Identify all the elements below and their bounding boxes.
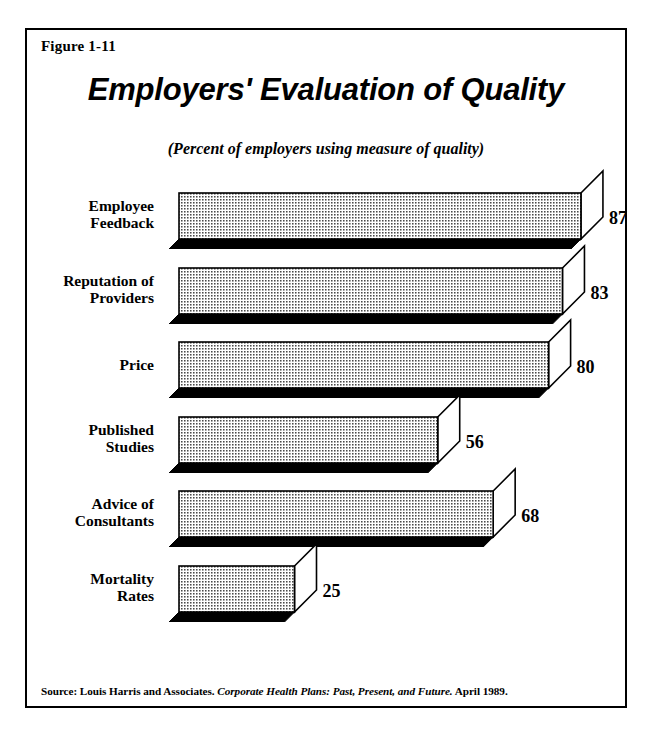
bar-category-label: Advice of Consultants (0, 495, 154, 529)
bar-front-face (179, 566, 295, 612)
bar-front-face (179, 268, 562, 314)
bar-side-face (549, 320, 571, 388)
bar-category-label: Price (0, 356, 154, 373)
bar-3d (145, 542, 325, 622)
figure-frame: Figure 1-11 Employers' Evaluation of Qua… (25, 28, 627, 708)
bar-side-face (493, 469, 515, 537)
bar-front-face (179, 491, 493, 537)
bar-category-label: Employee Feedback (0, 197, 154, 231)
bar-side-face (438, 395, 460, 463)
bar-category-label: Reputation of Providers (0, 272, 154, 306)
bar-value-label: 68 (521, 506, 539, 527)
bar-side-face (562, 246, 584, 314)
bar-side-face (581, 171, 603, 239)
source-publication-title: Corporate Health Plans: Past, Present, a… (217, 685, 452, 697)
bar-value-label: 80 (577, 357, 595, 378)
source-prefix: Source: Louis Harris and Associates. (41, 685, 215, 697)
bar-value-label: 25 (323, 581, 341, 602)
bar-3d (145, 393, 468, 473)
source-date: April 1989. (455, 685, 508, 697)
bar-3d (145, 244, 592, 324)
bar-category-label: Mortality Rates (0, 570, 154, 604)
chart-plot-area: Employee Feedback87Reputation of Provide… (27, 30, 629, 710)
bar-front-face (179, 417, 438, 463)
bar-value-label: 56 (466, 432, 484, 453)
bar-front-face (179, 193, 581, 239)
bar-base-face (157, 612, 295, 622)
bar-value-label: 83 (590, 283, 608, 304)
source-note: Source: Louis Harris and Associates. Cor… (41, 685, 615, 697)
bar-value-label: 87 (609, 208, 627, 229)
bar-3d (145, 318, 579, 398)
bar-category-label: Published Studies (0, 421, 154, 455)
bar-3d (145, 467, 523, 547)
bar-3d (145, 169, 611, 249)
bar-front-face (179, 342, 549, 388)
bar-side-face (295, 544, 317, 612)
